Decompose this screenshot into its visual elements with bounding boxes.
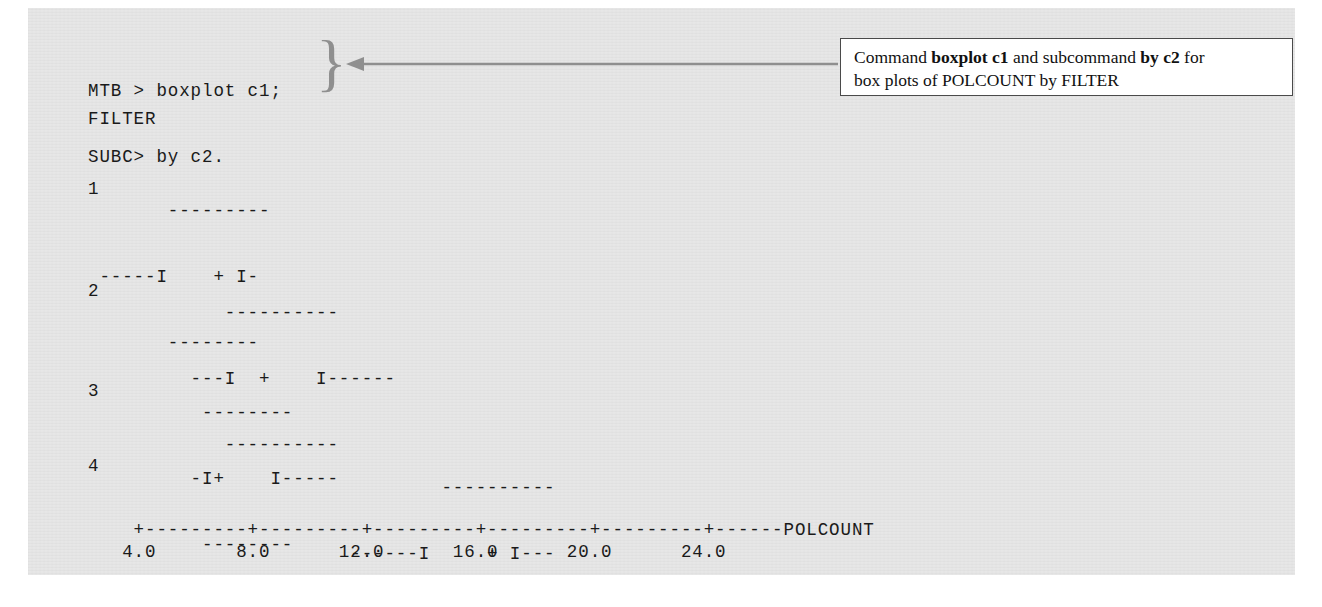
boxplot-row-2: 2 ---------- ---I + I------ ----------	[88, 258, 134, 346]
annotation-bold-1: boxplot c1	[931, 47, 1008, 67]
annotation-text-2: and subcommand	[1009, 47, 1141, 67]
annotation-text-1: Command	[854, 47, 931, 67]
annotation-callout: Command boxplot c1 and subcommand by c2 …	[840, 38, 1293, 96]
boxplot-top-edge-3: --------	[88, 402, 339, 424]
curly-brace-icon: }	[316, 30, 346, 96]
boxplot-top-edge-2: ----------	[88, 302, 396, 324]
boxplot-row-1: 1 --------- -----I + I- --------	[88, 156, 134, 244]
x-axis-line: +---------+---------+---------+---------…	[88, 519, 875, 541]
boxplot-top-edge-4: ----------	[88, 477, 555, 499]
annotation-text-3: for	[1180, 47, 1205, 67]
annotation-bold-2: by c2	[1140, 47, 1179, 67]
x-axis-tick-labels: 4.0 8.0 12.0 16.0 20.0 24.0	[88, 541, 727, 563]
scanned-page-panel: MTB > boxplot c1; SUBC> by c2. } Command…	[28, 8, 1295, 575]
group-variable-header: FILTER	[88, 108, 156, 130]
boxplot-row-4: 4 ---------- ------I + I--- ----------	[88, 433, 134, 521]
callout-arrow-icon	[344, 52, 840, 76]
annotation-line-1: Command boxplot c1 and subcommand by c2 …	[854, 46, 1280, 69]
boxplot-top-edge-1: ---------	[88, 200, 270, 222]
command-line-1: MTB > boxplot c1;	[88, 80, 282, 102]
annotation-line-2: box plots of POLCOUNT by FILTER	[854, 69, 1280, 92]
